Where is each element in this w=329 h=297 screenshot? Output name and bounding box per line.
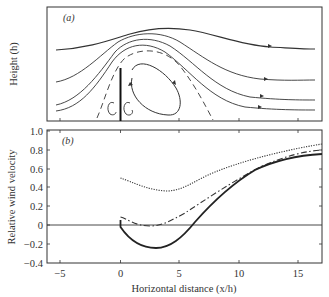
streamlines <box>56 28 315 111</box>
x-tick-label: −5 <box>54 268 65 279</box>
panel-b-ylabel: Relative wind velocity <box>6 149 17 245</box>
panel-a: (a) Height (h) <box>8 7 322 121</box>
downwind-small-eddy <box>124 102 133 115</box>
y-tick-label: 0 <box>38 220 43 231</box>
x-tick-labels: −5 0 5 10 15 <box>54 268 303 279</box>
dotted-velocity-curve <box>121 144 323 191</box>
figure: (a) Height (h) <box>0 0 329 297</box>
upwind-small-eddy <box>108 102 116 114</box>
dashed-velocity-curve <box>121 150 323 226</box>
y-tick-label: 0.2 <box>30 201 43 212</box>
panel-b-frame <box>47 130 322 263</box>
panel-a-label: (a) <box>63 12 75 24</box>
panel-a-frame <box>47 7 322 121</box>
panel-b-label: (b) <box>62 135 74 147</box>
x-tick-label: 5 <box>176 268 181 279</box>
panel-b-xlabel: Horizontal distance (x/h) <box>132 283 237 295</box>
x-tick-label: 10 <box>234 268 245 279</box>
panel-a-ylabel: Height (h) <box>8 42 20 86</box>
y-tick-label: 0.6 <box>30 164 43 175</box>
y-tick-labels: 1.0 0.8 0.6 0.4 0.2 0 −0.2 −0.4 <box>24 126 44 269</box>
x-tick-label: 0 <box>118 268 123 279</box>
x-tick-label: 15 <box>293 268 304 279</box>
recirculation-eddy <box>131 64 180 115</box>
y-tick-label: 1.0 <box>30 126 43 137</box>
y-tick-label: −0.4 <box>24 258 44 269</box>
y-tick-label: 0.8 <box>30 145 43 156</box>
flow-arrow-icons <box>258 44 272 109</box>
y-tick-label: −0.2 <box>24 239 43 250</box>
eddy-arrow-icon <box>128 82 133 86</box>
y-tick-label: 0.4 <box>30 182 44 193</box>
solid-velocity-curve <box>121 154 323 248</box>
separation-streamline <box>97 51 213 120</box>
panel-b: 1.0 0.8 0.6 0.4 0.2 0 −0.2 −0.4 −5 0 5 1… <box>6 126 322 295</box>
